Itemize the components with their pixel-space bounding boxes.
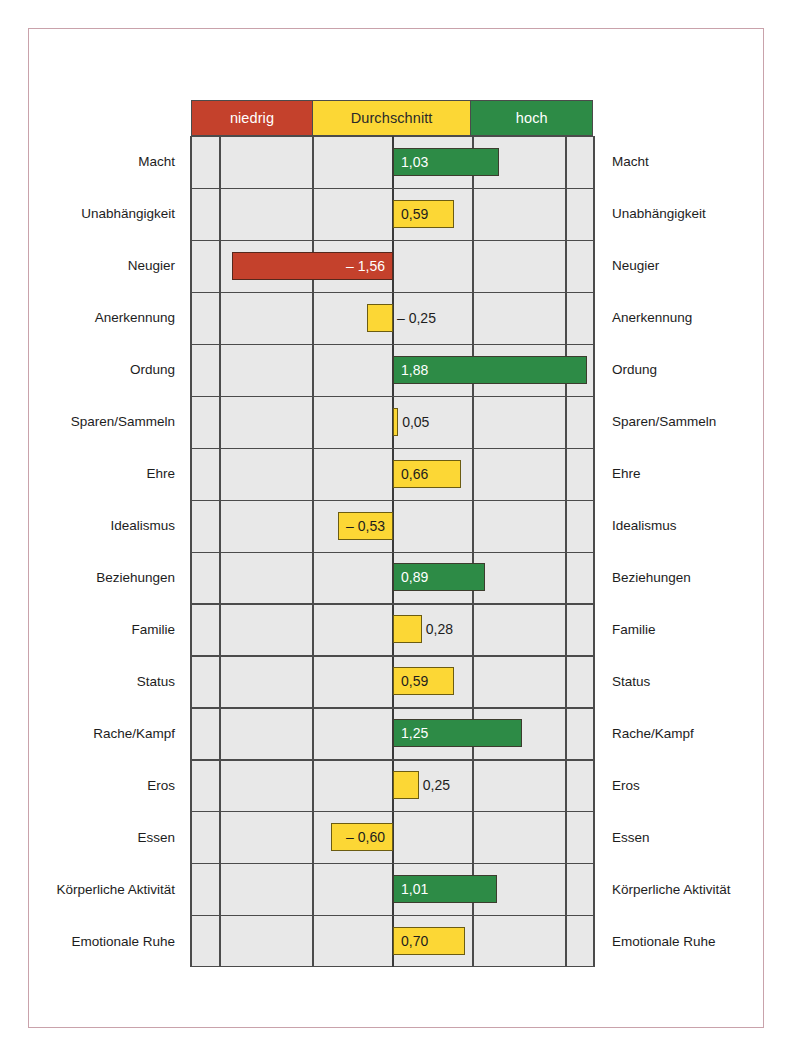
chart-legend-band: niedrig Durchschnitt hoch [191,100,594,136]
row-label-right: Eros [612,759,792,811]
chart-row: IdealismusIdealismus– 0,53 [0,500,794,552]
bar-value-label: 1,01 [394,881,435,897]
bar: 0,66 [393,460,461,488]
row-label-right: Anerkennung [612,292,792,344]
row-label-left: Familie [0,603,175,655]
bar-value-label: 0,59 [394,673,435,689]
row-label-right: Emotionale Ruhe [612,915,792,967]
chart-row: Sparen/SammelnSparen/Sammeln0,05 [0,396,794,448]
bar: 0,59 [393,667,454,695]
chart-row: AnerkennungAnerkennung– 0,25 [0,292,794,344]
chart-row: ErosEros0,25 [0,759,794,811]
row-label-right: Körperliche Aktivität [612,863,792,915]
row-label-right: Sparen/Sammeln [612,396,792,448]
chart-row: MachtMacht1,03 [0,136,794,188]
chart-row: EssenEssen– 0,60 [0,811,794,863]
legend-item-durchschnitt: Durchschnitt [312,100,472,136]
chart-row: StatusStatus0,59 [0,655,794,707]
bar-value-label: 0,25 [423,777,450,793]
bar-value-label: 0,28 [426,621,453,637]
bar: 0,59 [393,200,454,228]
row-label-left: Status [0,655,175,707]
chart-row: Körperliche AktivitätKörperliche Aktivit… [0,863,794,915]
chart-row: NeugierNeugier– 1,56 [0,240,794,292]
chart-row: EhreEhre0,66 [0,448,794,500]
bar-value-label: 0,66 [394,466,435,482]
row-label-right: Beziehungen [612,552,792,604]
chart-row: OrdungOrdung1,88 [0,344,794,396]
bar-value-label: – 0,60 [339,829,392,845]
bar: 0,05 [393,408,398,436]
row-label-left: Ordung [0,344,175,396]
bar: 0,89 [393,563,485,591]
bar: – 0,60 [331,823,393,851]
chart-row: Emotionale RuheEmotionale Ruhe0,70 [0,915,794,967]
bar-value-label: 1,25 [394,725,435,741]
bar: – 1,56 [232,252,393,280]
bar: 0,25 [393,771,419,799]
row-label-left: Sparen/Sammeln [0,396,175,448]
row-label-right: Ordung [612,344,792,396]
bar: 0,28 [393,615,422,643]
row-label-left: Unabhängigkeit [0,188,175,240]
bar-value-label: 0,89 [394,569,435,585]
row-label-left: Anerkennung [0,292,175,344]
row-label-right: Neugier [612,240,792,292]
bar: – 0,25 [367,304,393,332]
bar: 0,70 [393,927,465,955]
row-label-left: Rache/Kampf [0,707,175,759]
row-label-left: Macht [0,136,175,188]
bar: 1,03 [393,148,499,176]
row-label-left: Beziehungen [0,552,175,604]
bar-value-label: 1,88 [394,362,435,378]
legend-item-niedrig: niedrig [191,100,313,136]
row-label-right: Status [612,655,792,707]
row-label-left: Emotionale Ruhe [0,915,175,967]
legend-item-hoch: hoch [470,100,593,136]
chart-row: FamilieFamilie0,28 [0,603,794,655]
row-label-left: Idealismus [0,500,175,552]
values-profile-chart: niedrig Durchschnitt hoch MachtMacht1,03… [0,0,794,1058]
bar-value-label: – 0,53 [339,518,392,534]
chart-row: BeziehungenBeziehungen0,89 [0,552,794,604]
row-label-left: Ehre [0,448,175,500]
row-label-right: Essen [612,811,792,863]
row-label-right: Ehre [612,448,792,500]
bar: 1,25 [393,719,522,747]
row-label-left: Eros [0,759,175,811]
bar: – 0,53 [338,512,393,540]
row-label-right: Idealismus [612,500,792,552]
row-label-right: Unabhängigkeit [612,188,792,240]
row-label-left: Neugier [0,240,175,292]
chart-row: UnabhängigkeitUnabhängigkeit0,59 [0,188,794,240]
bar-value-label: 0,59 [394,206,435,222]
bar-value-label: – 1,56 [339,258,392,274]
bar: 1,01 [393,875,497,903]
bar-value-label: 1,03 [394,154,435,170]
chart-row: Rache/KampfRache/Kampf1,25 [0,707,794,759]
row-label-right: Rache/Kampf [612,707,792,759]
row-label-left: Körperliche Aktivität [0,863,175,915]
row-label-left: Essen [0,811,175,863]
bar-value-label: 0,70 [394,933,435,949]
bar: 1,88 [393,356,587,384]
row-label-right: Macht [612,136,792,188]
bar-value-label: 0,05 [402,414,429,430]
bar-value-label: – 0,25 [397,310,436,326]
row-label-right: Familie [612,603,792,655]
